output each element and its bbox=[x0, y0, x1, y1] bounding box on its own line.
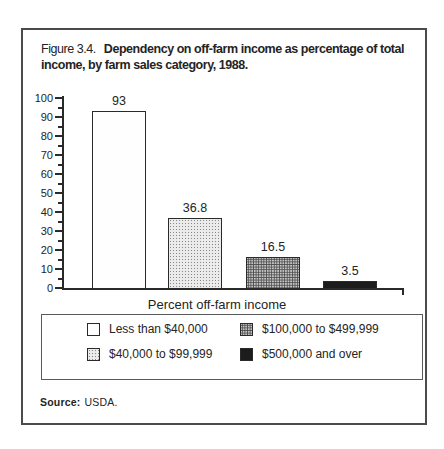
bar-value-label-1: 93 bbox=[92, 94, 146, 109]
bar-chart: Percent off-farm income 0102030405060708… bbox=[0, 0, 444, 449]
y-tick-label: 40 bbox=[19, 205, 53, 219]
x-axis-line bbox=[62, 288, 404, 290]
x-axis-label: Percent off-farm income bbox=[131, 297, 303, 312]
y-tick-label: 0 bbox=[19, 281, 53, 295]
y-tick-label: 50 bbox=[19, 186, 53, 200]
y-axis-major-tick bbox=[55, 211, 63, 213]
y-axis-minor-tick bbox=[58, 183, 63, 185]
y-axis-major-tick bbox=[55, 268, 63, 270]
legend-label: $40,000 to $99,999 bbox=[109, 347, 212, 362]
y-axis-minor-tick bbox=[58, 164, 63, 166]
y-tick-label: 70 bbox=[19, 148, 53, 162]
y-axis-major-tick bbox=[55, 287, 63, 289]
y-axis-major-tick bbox=[55, 116, 63, 118]
y-axis-minor-tick bbox=[58, 145, 63, 147]
y-tick-label: 30 bbox=[19, 224, 53, 238]
y-tick-label: 80 bbox=[19, 129, 53, 143]
legend-swatch-medium-stipple bbox=[240, 323, 253, 336]
y-axis-major-tick bbox=[55, 173, 63, 175]
y-axis-minor-tick bbox=[58, 240, 63, 242]
y-tick-label: 10 bbox=[19, 262, 53, 276]
legend-item-less-than-40000: Less than $40,000 bbox=[87, 322, 208, 337]
bar-value-label-3: 16.5 bbox=[246, 240, 300, 255]
y-axis-minor-tick bbox=[58, 107, 63, 109]
bar-2 bbox=[168, 218, 222, 288]
y-axis-major-tick bbox=[55, 230, 63, 232]
source-label: Source: bbox=[40, 396, 81, 408]
y-axis-major-tick bbox=[55, 154, 63, 156]
legend-label: $100,000 to $499,999 bbox=[262, 322, 379, 337]
bar-value-label-4: 3.5 bbox=[323, 264, 377, 279]
y-axis-minor-tick bbox=[58, 221, 63, 223]
y-axis-major-tick bbox=[55, 192, 63, 194]
bar-value-label-2: 36.8 bbox=[168, 201, 222, 216]
figure-scan-page: Figure 3.4.Dependency on off-farm income… bbox=[0, 0, 444, 449]
legend-swatch-white bbox=[87, 323, 100, 336]
y-tick-label: 20 bbox=[19, 243, 53, 257]
bar-3 bbox=[246, 257, 300, 288]
legend-label: Less than $40,000 bbox=[109, 322, 208, 337]
x-axis-end-tick bbox=[402, 288, 404, 295]
legend-item-40000-to-99999: $40,000 to $99,999 bbox=[87, 347, 212, 362]
y-tick-label: 100 bbox=[19, 91, 53, 105]
legend-label: $500,000 and over bbox=[262, 347, 362, 362]
legend-swatch-light-stipple bbox=[87, 348, 100, 361]
source-value: USDA. bbox=[85, 396, 118, 408]
source-line: Source:USDA. bbox=[40, 396, 118, 408]
y-axis-minor-tick bbox=[58, 278, 63, 280]
y-tick-label: 60 bbox=[19, 167, 53, 181]
y-axis-major-tick bbox=[55, 249, 63, 251]
legend-item-500000-and-over: $500,000 and over bbox=[240, 347, 362, 362]
bar-4 bbox=[323, 281, 377, 288]
y-axis-major-tick bbox=[55, 135, 63, 137]
legend-item-100000-to-499999: $100,000 to $499,999 bbox=[240, 322, 379, 337]
bar-1 bbox=[92, 111, 146, 288]
y-axis-minor-tick bbox=[58, 126, 63, 128]
y-axis-minor-tick bbox=[58, 259, 63, 261]
legend-swatch-black bbox=[240, 348, 253, 361]
y-tick-label: 90 bbox=[19, 110, 53, 124]
y-axis-minor-tick bbox=[58, 202, 63, 204]
y-axis-major-tick bbox=[55, 97, 63, 99]
